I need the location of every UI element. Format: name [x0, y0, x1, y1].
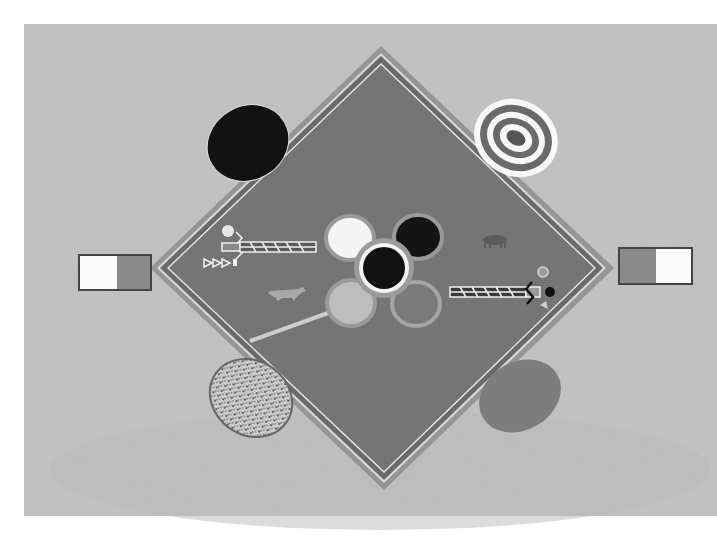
black-center-disc: [363, 247, 405, 289]
right-rectangle-gray-white: [618, 247, 693, 285]
left-rectangle-white-gray: [78, 254, 152, 291]
artwork-canvas: [0, 0, 717, 538]
